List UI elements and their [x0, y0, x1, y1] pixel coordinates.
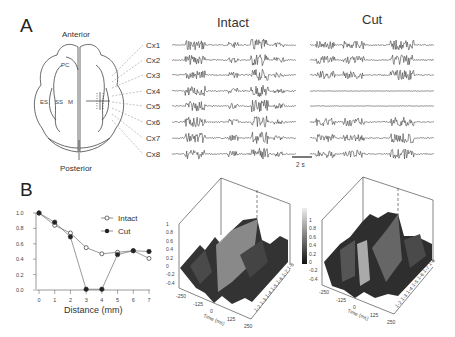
time-tick-label: 250: [244, 323, 253, 329]
condition-title-cut: Cut: [362, 12, 383, 27]
time-tick-label: 0: [210, 308, 213, 314]
filled-circle-marker-icon: [84, 287, 88, 291]
eeg-trace: [172, 85, 296, 96]
eeg-trace: [172, 132, 296, 144]
legend-open-circle-icon: [105, 216, 109, 220]
x-tick-label: 4: [100, 297, 103, 303]
z-tick-label: -0.2: [166, 271, 175, 277]
channel-label: Cx2: [146, 56, 161, 65]
eeg-trace: [310, 134, 434, 143]
x-tick-labels: 01234567: [38, 290, 151, 303]
eeg-trace: [172, 148, 296, 159]
scale-bar-label: 2 s: [296, 161, 305, 168]
panel-letter-b: B: [20, 179, 33, 200]
channel-label: Cx8: [146, 150, 161, 159]
y-tick-label: 0.0: [16, 287, 24, 293]
eeg-traces-intact: [172, 39, 296, 159]
chart-legend: Intact Cut: [101, 214, 138, 236]
channel-labels: Cx1 Cx2 Cx3 Cx4 Cx5 Cx6 Cx7 Cx8: [146, 41, 161, 159]
condition-title-intact: Intact: [217, 15, 249, 30]
z-tick-label: 0.2: [166, 255, 173, 261]
channel-label: Cx7: [146, 134, 161, 143]
z-tick-label: -0.2: [309, 267, 318, 273]
eeg-trace: [172, 116, 296, 127]
surface-plot-cut: 10.80.60.40.20-0.2-0.4 -250-1250125250 1…: [309, 177, 436, 325]
channel-label: Cx3: [146, 71, 161, 80]
z-tick-label: 0.8: [166, 229, 173, 235]
z-tick-label: 1: [166, 221, 169, 227]
time-tick-label: -125: [336, 297, 346, 303]
y-tick-label: 0.4: [16, 256, 24, 262]
y-tick-labels: 0.00.20.40.60.81.0: [16, 210, 36, 293]
region-pc: PC: [61, 62, 70, 68]
correlation-line-chart: 0.00.20.40.60.81.0 01234567 Intact Cut D…: [16, 210, 151, 315]
z-tick-label: 0.6: [166, 238, 173, 244]
legend-filled-circle-icon: [105, 229, 109, 233]
eeg-trace: [172, 69, 296, 80]
filled-circle-marker-icon: [37, 211, 41, 215]
x-tick-label: 0: [38, 297, 41, 303]
z-tick-label: -0.4: [166, 280, 175, 286]
x-tick-label: 3: [85, 297, 88, 303]
channel-label: Cx6: [146, 118, 161, 127]
y-tick-label: 0.2: [16, 272, 24, 278]
channel-leader-lines: [112, 45, 143, 154]
channel-label: Cx1: [146, 41, 161, 50]
channel-label: Cx5: [146, 102, 161, 111]
y-tick-label: 1.0: [16, 210, 24, 216]
legend-label-cut: Cut: [118, 227, 131, 236]
filled-circle-marker-icon: [68, 235, 72, 239]
filled-circle-marker-icon: [100, 287, 104, 291]
y-tick-label: 0.8: [16, 225, 24, 231]
x-tick-label: 1: [53, 297, 56, 303]
eeg-trace: [172, 39, 296, 50]
colorbar: [302, 208, 307, 264]
eeg-trace: [310, 106, 434, 107]
z-tick-label: 0: [309, 259, 312, 265]
z-tick-label: 1: [309, 217, 312, 223]
time-tick-label: 250: [387, 319, 396, 325]
region-ss: SS: [55, 99, 63, 105]
x-tick-label: 6: [132, 297, 135, 303]
time-tick-label: 125: [370, 312, 379, 318]
channel-label: Cx4: [146, 87, 161, 96]
posterior-label: Posterior: [60, 164, 92, 173]
z-tick-labels: 10.80.60.40.20-0.2-0.4: [166, 221, 175, 286]
z-tick-label: 0.6: [309, 234, 316, 240]
time-tick-label: -250: [176, 293, 186, 299]
x-axis-label: Distance (mm): [64, 305, 123, 315]
filled-circle-marker-icon: [147, 249, 151, 253]
region-es: ES: [40, 99, 48, 105]
time-tick-label: -250: [319, 289, 329, 295]
legend-label-intact: Intact: [118, 214, 138, 223]
eeg-trace: [310, 40, 434, 50]
z-tick-labels: 10.80.60.40.20-0.2-0.4: [309, 217, 318, 282]
eeg-trace: [310, 91, 434, 92]
surface-plot-intact: 10.80.60.40.20-0.2-0.4 -250-1250125250 1…: [166, 178, 295, 329]
eeg-trace: [310, 70, 434, 80]
filled-circle-marker-icon: [115, 252, 119, 256]
eeg-trace: [310, 55, 434, 65]
x-tick-label: 5: [116, 297, 119, 303]
z-tick-label: 0.4: [166, 246, 173, 252]
time-axis-label: Time (ms): [203, 312, 226, 326]
filled-circle-marker-icon: [131, 249, 135, 253]
x-tick-label: 2: [69, 297, 72, 303]
time-tick-label: -125: [193, 301, 203, 307]
open-circle-marker-icon: [147, 256, 151, 260]
y-tick-label: 0.6: [16, 241, 24, 247]
anterior-label: Anterior: [62, 30, 90, 39]
z-tick-label: 0.2: [309, 251, 316, 257]
electrode-array: [86, 92, 110, 110]
figure: A Anterior Posterior PC ES SS M Cx1: [0, 0, 455, 337]
z-tick-label: -0.4: [309, 276, 318, 282]
eeg-trace: [310, 149, 434, 159]
open-circle-marker-icon: [100, 252, 104, 256]
x-tick-label: 7: [148, 297, 151, 303]
eeg-trace: [172, 55, 296, 66]
eeg-traces-cut: [310, 40, 434, 159]
time-axis-label: Time (ms): [347, 307, 370, 321]
region-m: M: [68, 99, 73, 105]
z-tick-label: 0: [166, 263, 169, 269]
time-tick-label: 125: [227, 316, 236, 322]
